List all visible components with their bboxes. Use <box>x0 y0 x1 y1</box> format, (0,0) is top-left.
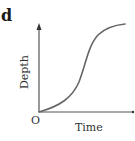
depth-time-diagram: d O Time Depth <box>0 0 135 141</box>
origin-label: O <box>31 114 40 127</box>
sigmoid-curve <box>39 24 125 112</box>
y-axis-arrow-icon <box>37 23 42 30</box>
y-axis-label: Depth <box>18 55 31 89</box>
panel-label: d <box>1 6 12 25</box>
x-axis-label: Time <box>75 121 103 134</box>
x-axis-end-marker <box>132 111 134 113</box>
